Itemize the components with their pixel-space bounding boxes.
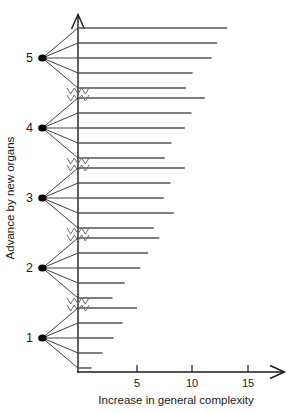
node-cluster-1: 1 xyxy=(26,308,137,368)
branch-stem-5-1 xyxy=(42,28,78,58)
y-axis-group xyxy=(72,15,85,373)
x-tick-label-15: 15 xyxy=(242,377,254,389)
node-dot-3 xyxy=(38,194,46,201)
branch-stem-1-4 xyxy=(42,338,78,353)
node-dot-1 xyxy=(38,334,46,341)
branch-stem-2-4 xyxy=(42,268,78,283)
branch-stem-3-2 xyxy=(42,183,78,198)
branch-stem-3-4 xyxy=(42,198,78,213)
branch-stem-1-5 xyxy=(42,338,78,368)
x-axis-ticks xyxy=(137,365,248,372)
branching-diagram: 5 10 15 Increase in general complexity A… xyxy=(0,0,299,413)
branch-stem-5-2 xyxy=(42,43,78,58)
branch-stem-5-5 xyxy=(42,58,78,88)
y-axis-title: Advance by new organs xyxy=(4,136,16,259)
figure-container: 5 10 15 Increase in general complexity A… xyxy=(0,0,299,413)
x-tick-labels: 5 10 15 xyxy=(134,377,254,389)
node-cluster-4: 4 xyxy=(26,98,205,158)
x-axis-title: Increase in general complexity xyxy=(98,394,254,406)
branch-stem-4-1 xyxy=(42,98,78,128)
node-clusters: 54321 xyxy=(26,28,227,368)
branch-stem-2-5 xyxy=(42,268,78,298)
node-cluster-3: 3 xyxy=(26,168,185,228)
branch-stem-3-1 xyxy=(42,168,78,198)
node-label-5: 5 xyxy=(26,51,33,65)
branch-stem-1-1 xyxy=(42,308,78,338)
x-tick-label-10: 10 xyxy=(186,377,198,389)
node-label-1: 1 xyxy=(26,331,33,345)
branch-stem-4-4 xyxy=(42,128,78,143)
branch-stem-4-5 xyxy=(42,128,78,158)
branch-stem-4-2 xyxy=(42,113,78,128)
node-cluster-5: 5 xyxy=(26,28,227,88)
branch-stem-2-1 xyxy=(42,238,78,268)
branch-stem-1-2 xyxy=(42,323,78,338)
node-dot-4 xyxy=(38,124,46,131)
node-dot-5 xyxy=(38,54,46,61)
node-label-3: 3 xyxy=(26,191,33,205)
node-cluster-2: 2 xyxy=(26,238,159,298)
branch-stem-5-4 xyxy=(42,58,78,73)
branch-stem-3-5 xyxy=(42,198,78,228)
node-dot-2 xyxy=(38,264,46,271)
branch-stem-2-2 xyxy=(42,253,78,268)
x-tick-label-5: 5 xyxy=(134,377,140,389)
node-label-4: 4 xyxy=(26,121,33,135)
node-label-2: 2 xyxy=(26,261,33,275)
